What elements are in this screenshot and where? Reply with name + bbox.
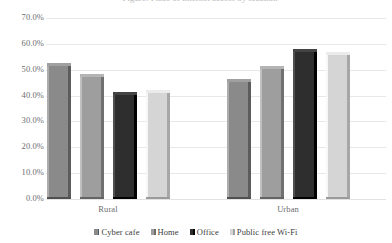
bar-bevel-right bbox=[68, 63, 71, 199]
y-axis-tick-label: 40.0% bbox=[0, 91, 44, 100]
gridline bbox=[46, 44, 386, 45]
bar-bevel-left bbox=[293, 49, 295, 199]
bar-bevel-top bbox=[326, 52, 350, 55]
bar-bevel-right bbox=[314, 49, 317, 199]
plot-area bbox=[46, 18, 386, 199]
y-axis: 0.0%10.0%20.0%30.0%40.0%50.0%60.0%70.0% bbox=[0, 0, 44, 243]
axis-baseline bbox=[46, 199, 386, 200]
bar-rural-public-free-wi-fi bbox=[146, 90, 170, 199]
bar-bevel-right bbox=[281, 66, 284, 199]
legend-swatch-icon bbox=[151, 229, 156, 235]
legend-swatch-icon bbox=[230, 229, 235, 235]
legend-swatch-icon bbox=[94, 229, 99, 235]
bar-bevel-bottom bbox=[47, 197, 71, 199]
legend-label: Home bbox=[158, 228, 179, 237]
bar-bevel-left bbox=[326, 52, 328, 199]
legend-item-office[interactable]: Office bbox=[190, 228, 219, 237]
bar-bevel-top bbox=[260, 66, 284, 69]
bar-bevel-bottom bbox=[80, 197, 104, 199]
chart-title-cropped: Figure: Place of internet access by loca… bbox=[95, 0, 305, 4]
y-axis-tick-label: 70.0% bbox=[0, 13, 44, 22]
x-axis-category-label: Rural bbox=[68, 204, 148, 214]
legend-label: Office bbox=[197, 228, 219, 237]
bar-bevel-left bbox=[227, 79, 229, 199]
bar-bevel-top bbox=[47, 63, 71, 66]
y-axis-tick-label: 10.0% bbox=[0, 168, 44, 177]
bar-bevel-top bbox=[293, 49, 317, 52]
y-axis-tick-label: 50.0% bbox=[0, 65, 44, 74]
y-axis-tick-label: 30.0% bbox=[0, 116, 44, 125]
bar-bevel-top bbox=[227, 79, 251, 82]
legend-label: Public free Wi-Fi bbox=[237, 228, 298, 237]
bar-rural-cyber-cafe bbox=[47, 63, 71, 199]
bar-urban-public-free-wi-fi bbox=[326, 52, 350, 199]
bar-chart: Figure: Place of internet access by loca… bbox=[0, 0, 392, 243]
bar-bevel-bottom bbox=[113, 197, 137, 199]
y-axis-tick-label: 20.0% bbox=[0, 142, 44, 151]
chart-legend: Cyber cafeHomeOfficePublic free Wi-Fi bbox=[0, 225, 392, 239]
bar-bevel-top bbox=[146, 90, 170, 93]
bar-urban-cyber-cafe bbox=[227, 79, 251, 199]
y-axis-tick-label: 60.0% bbox=[0, 39, 44, 48]
bar-bevel-left bbox=[47, 63, 49, 199]
bar-bevel-right bbox=[248, 79, 251, 199]
bar-bevel-bottom bbox=[326, 197, 350, 199]
legend-label: Cyber cafe bbox=[101, 228, 139, 237]
bar-bevel-right bbox=[347, 52, 350, 199]
bar-rural-office bbox=[113, 92, 137, 199]
bar-bevel-right bbox=[134, 92, 137, 199]
gridline bbox=[46, 18, 386, 19]
bar-bevel-right bbox=[167, 90, 170, 199]
legend-swatch-icon bbox=[190, 229, 195, 235]
bar-bevel-left bbox=[113, 92, 115, 199]
legend-item-cyber-cafe[interactable]: Cyber cafe bbox=[94, 228, 139, 237]
bar-bevel-bottom bbox=[227, 197, 251, 199]
bar-bevel-bottom bbox=[146, 197, 170, 199]
y-axis-tick-label: 0.0% bbox=[0, 194, 44, 203]
bar-bevel-left bbox=[260, 66, 262, 199]
bar-bevel-left bbox=[80, 74, 82, 199]
bar-bevel-top bbox=[80, 74, 104, 77]
bar-bevel-bottom bbox=[293, 197, 317, 199]
bar-bevel-right bbox=[101, 74, 104, 199]
legend-item-public-free-wi-fi[interactable]: Public free Wi-Fi bbox=[230, 228, 298, 237]
bar-urban-office bbox=[293, 49, 317, 199]
bar-rural-home bbox=[80, 74, 104, 199]
bar-urban-home bbox=[260, 66, 284, 199]
legend-item-home[interactable]: Home bbox=[151, 228, 179, 237]
bar-bevel-top bbox=[113, 92, 137, 95]
bar-bevel-left bbox=[146, 90, 148, 199]
chart-title-text: Figure: Place of internet access by loca… bbox=[95, 0, 305, 3]
x-axis-category-label: Urban bbox=[248, 204, 328, 214]
bar-bevel-bottom bbox=[260, 197, 284, 199]
